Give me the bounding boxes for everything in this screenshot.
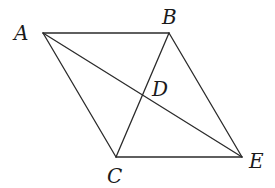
label-d: D xyxy=(151,77,168,101)
label-e: E xyxy=(248,149,264,173)
segment-be xyxy=(169,33,242,157)
segment-ac xyxy=(43,33,116,157)
label-c: C xyxy=(107,164,122,188)
geometry-diagram: A B C D E xyxy=(0,0,275,188)
label-a: A xyxy=(12,21,28,45)
label-b: B xyxy=(161,5,177,29)
